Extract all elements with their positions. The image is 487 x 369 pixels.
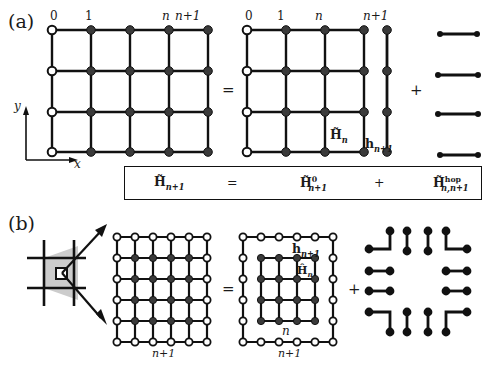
lattice-b-n-plus-1 — [113, 233, 210, 345]
big-lattice-bottom-label: n+1 — [152, 348, 175, 359]
label-h-n-plus-1-ring: hn+1 — [292, 243, 320, 258]
plus-sign-b: + — [348, 282, 361, 297]
figure-root: (a) 0 1 n n+1 0 1 n n+1 — [0, 0, 487, 369]
hop-bond-ring — [366, 228, 470, 335]
zoom-inset — [27, 224, 107, 325]
nested-inner-bottom-label: n — [282, 325, 290, 337]
panel-b-graphics — [0, 0, 487, 369]
equals-sign-b: = — [222, 282, 235, 297]
nested-outer-bottom-label: n+1 — [278, 348, 301, 359]
label-h-hat-n: Ĥn — [297, 265, 313, 278]
